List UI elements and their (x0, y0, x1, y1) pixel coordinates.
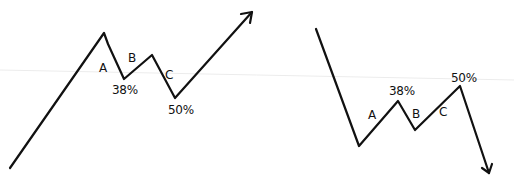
right-label-c: C (439, 106, 447, 118)
right-wave (316, 29, 492, 173)
diagram-canvas: A B C 38% 50% A B C 38% 50% (0, 0, 514, 196)
right-label-a: A (368, 109, 376, 121)
right-retrace-38: 38% (389, 85, 415, 97)
right-retrace-50: 50% (451, 72, 477, 84)
wave-drawing (0, 0, 514, 196)
left-label-b: B (128, 52, 136, 64)
right-wave-path (316, 29, 489, 173)
left-label-c: C (165, 69, 173, 81)
left-retrace-38: 38% (112, 84, 138, 96)
left-label-a: A (99, 62, 107, 74)
left-retrace-50: 50% (168, 104, 194, 116)
right-label-b: B (412, 108, 420, 120)
